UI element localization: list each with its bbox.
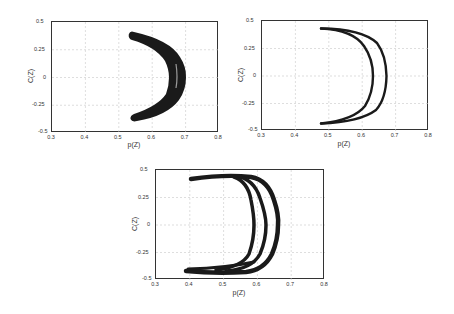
xtick: 0.8 <box>424 132 432 138</box>
xtick: 0.3 <box>151 281 159 287</box>
ytick: 0 <box>43 74 46 80</box>
ytick: -0.5 <box>248 126 257 132</box>
axes-1 <box>51 21 218 132</box>
ytick: -0.5 <box>142 275 151 281</box>
xtick: 0.7 <box>181 134 189 140</box>
x-axis-label: p(Z) <box>128 141 141 148</box>
ytick: -0.5 <box>38 128 47 134</box>
xtick: 0.6 <box>147 134 155 140</box>
axes-2 <box>261 20 428 130</box>
ytick: 0.5 <box>246 17 254 23</box>
ytick: 0.25 <box>138 194 149 200</box>
ytick: 0.5 <box>36 18 44 24</box>
xtick: 0.3 <box>47 134 55 140</box>
axes-3 <box>155 169 324 279</box>
ytick: -0.25 <box>136 249 149 255</box>
xtick: 0.8 <box>214 134 222 140</box>
x-axis-label: p(Z) <box>338 140 351 147</box>
xtick: 0.8 <box>320 281 328 287</box>
xtick: 0.4 <box>185 281 193 287</box>
grid-lines <box>262 21 429 131</box>
xtick: 0.4 <box>81 134 89 140</box>
xtick: 0.3 <box>257 132 265 138</box>
ytick: 0 <box>253 72 256 78</box>
plot-area-1 <box>52 22 219 133</box>
ytick: -0.25 <box>242 100 255 106</box>
xtick: 0.7 <box>391 132 399 138</box>
x-axis-label: p(Z) <box>233 289 246 296</box>
plot-area-3 <box>156 170 325 280</box>
chaotic-band <box>186 176 278 273</box>
ytick: 0.25 <box>244 45 255 51</box>
xtick: 0.5 <box>324 132 332 138</box>
y-axis-label: C(Z) <box>27 69 34 83</box>
inner-band <box>216 177 254 270</box>
xtick: 0.5 <box>219 281 227 287</box>
xtick: 0.7 <box>286 281 294 287</box>
plot-area-2 <box>262 21 429 131</box>
ytick: 0 <box>147 221 150 227</box>
xtick: 0.6 <box>253 281 261 287</box>
xtick: 0.6 <box>357 132 365 138</box>
ytick: -0.25 <box>32 101 45 107</box>
y-axis-label: C(Z) <box>131 217 138 231</box>
xtick: 0.5 <box>114 134 122 140</box>
y-axis-label: C(Z) <box>237 68 244 82</box>
xtick: 0.4 <box>291 132 299 138</box>
ytick: 0.25 <box>34 46 45 52</box>
ytick: 0.5 <box>140 166 148 172</box>
